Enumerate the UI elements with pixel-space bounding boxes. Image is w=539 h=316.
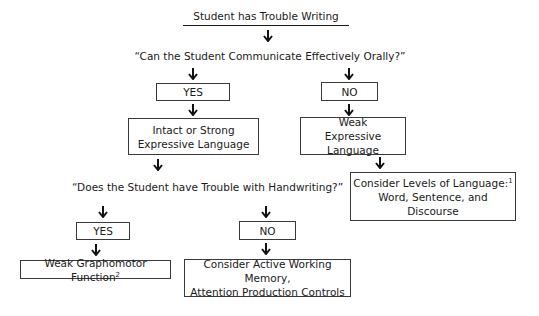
active-working-memory-box: Consider Active Working Memory, Attentio… <box>184 259 351 297</box>
intact-expressive-language-box: Intact or Strong Expressive Language <box>128 118 259 155</box>
down-arrow-icon <box>98 206 108 218</box>
intact-line2: Expressive Language <box>138 137 250 151</box>
q1-yes-label: YES <box>183 85 203 99</box>
down-arrow-icon <box>188 104 198 116</box>
question-handwriting: “Does the Student have Trouble with Hand… <box>72 181 312 193</box>
weak-graphomotor-box: Weak Graphomotor Function2 <box>20 260 171 279</box>
weak-line2: Expressive Language <box>301 129 405 157</box>
down-arrow-icon <box>91 244 101 256</box>
question-oral-communication: “Can the Student Communicate Effectively… <box>120 50 420 62</box>
levels-line1-text: Consider Levels of Language: <box>353 177 508 189</box>
down-arrow-icon <box>263 30 273 42</box>
footnote-1: 1 <box>508 176 512 184</box>
levels-line1: Consider Levels of Language:1 <box>353 176 512 190</box>
levels-line2: Word, Sentence, and Discourse <box>351 190 515 218</box>
grapho-label: Weak Graphomotor Function2 <box>21 256 170 284</box>
q1-no-label: NO <box>341 85 357 99</box>
flowchart-title: Student has Trouble Writing <box>183 10 349 26</box>
q2-no-label: NO <box>259 224 275 238</box>
down-arrow-icon <box>261 243 271 255</box>
grapho-text: Weak Graphomotor Function <box>44 257 146 283</box>
down-arrow-icon <box>261 206 271 218</box>
active-line2: Attention Production Controls <box>190 285 344 299</box>
footnote-2: 2 <box>116 270 120 278</box>
q1-yes-box: YES <box>156 83 230 101</box>
q2-no-box: NO <box>239 221 296 240</box>
q2-yes-box: YES <box>76 222 130 240</box>
down-arrow-icon <box>188 68 198 80</box>
weak-expressive-language-box: Weak Expressive Language <box>300 117 406 155</box>
down-arrow-icon <box>153 159 163 171</box>
active-line1: Consider Active Working Memory, <box>185 257 350 285</box>
down-arrow-icon <box>344 68 354 80</box>
q2-yes-label: YES <box>93 224 113 238</box>
levels-of-language-box: Consider Levels of Language:1 Word, Sent… <box>350 172 516 221</box>
weak-line1: Weak <box>339 115 368 129</box>
down-arrow-icon <box>375 157 385 169</box>
q1-no-box: NO <box>321 82 378 101</box>
intact-line1: Intact or Strong <box>152 123 234 137</box>
